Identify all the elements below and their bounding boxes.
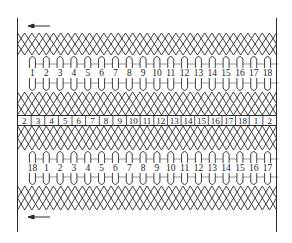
lower-middle-end-connections <box>18 126 277 150</box>
coil-label: 11 <box>166 68 175 78</box>
slot-number: 1 <box>254 116 259 126</box>
slot-number: 6 <box>77 116 82 126</box>
coil-label: 12 <box>194 163 204 173</box>
coil-label: 2 <box>44 68 49 78</box>
slot-number-strip: 2345678910111213141516171812 <box>18 116 277 126</box>
bottom-direction-arrow-icon <box>28 215 50 219</box>
coil-label: 9 <box>155 163 160 173</box>
coil-label: 13 <box>194 68 204 78</box>
coil-label: 12 <box>180 68 190 78</box>
slot-number: 9 <box>117 116 122 126</box>
coil-label: 18 <box>28 163 38 173</box>
coil-label: 14 <box>221 163 231 173</box>
coil-label: 5 <box>99 163 104 173</box>
coil-label: 4 <box>72 68 77 78</box>
slot-number: 4 <box>49 116 54 126</box>
slot-number: 12 <box>156 116 165 126</box>
coil-label: 15 <box>221 68 231 78</box>
coil-label: 7 <box>127 163 132 173</box>
coil-label: 1 <box>44 163 49 173</box>
slot-number: 18 <box>238 116 248 126</box>
coil-label: 3 <box>58 68 63 78</box>
coil-label: 15 <box>235 163 245 173</box>
slot-number: 7 <box>90 116 95 126</box>
coil-label: 8 <box>127 68 132 78</box>
coil-label: 4 <box>85 163 90 173</box>
slot-number: 10 <box>129 116 139 126</box>
coil-label: 7 <box>113 68 118 78</box>
upper-middle-end-connections <box>18 92 277 115</box>
coil-label: 8 <box>141 163 146 173</box>
coil-label: 10 <box>166 163 176 173</box>
slot-number: 17 <box>224 116 234 126</box>
coil-label: 17 <box>263 163 273 173</box>
coil-label: 16 <box>249 163 259 173</box>
top-end-connections <box>18 33 277 55</box>
winding-diagram: 123456789101112131415161718 234567891011… <box>0 0 292 243</box>
top-coil-labels: 123456789101112131415161718 <box>30 68 273 78</box>
coil-label: 17 <box>249 68 259 78</box>
coil-label: 6 <box>99 68 104 78</box>
slot-number: 2 <box>267 116 272 126</box>
coil-label: 5 <box>85 68 90 78</box>
coil-label: 18 <box>263 68 273 78</box>
coil-label: 6 <box>113 163 118 173</box>
coil-label: 10 <box>152 68 162 78</box>
coil-label: 13 <box>208 163 218 173</box>
bottom-end-connections <box>18 186 277 210</box>
slot-number: 2 <box>22 116 27 126</box>
coil-label: 16 <box>235 68 245 78</box>
top-direction-arrow-icon <box>28 24 50 28</box>
slot-number: 15 <box>197 116 207 126</box>
slot-number: 16 <box>211 116 221 126</box>
coil-label: 1 <box>30 68 35 78</box>
slot-number: 11 <box>143 116 152 126</box>
slot-number: 3 <box>36 116 41 126</box>
slot-number: 14 <box>183 116 193 126</box>
coil-label: 14 <box>208 68 218 78</box>
slot-number: 8 <box>104 116 109 126</box>
coil-label: 9 <box>141 68 146 78</box>
coil-label: 2 <box>58 163 63 173</box>
coil-label: 3 <box>72 163 77 173</box>
slot-number: 13 <box>170 116 180 126</box>
bottom-coil-labels: 181234567891011121314151617 <box>28 163 273 173</box>
coil-label: 11 <box>180 163 189 173</box>
slot-number: 5 <box>63 116 68 126</box>
